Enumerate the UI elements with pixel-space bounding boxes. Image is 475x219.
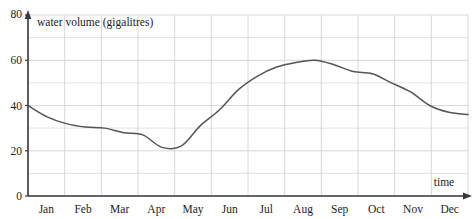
x-tick-label-sep: Sep xyxy=(331,203,349,216)
y-tick-label-20: 20 xyxy=(11,145,23,157)
y-tick-label-60: 60 xyxy=(11,54,23,66)
x-axis-month-labels: Jan Feb Mar Apr May Jun Jul Aug Sep Oct … xyxy=(39,203,459,216)
y-axis-caption: water volume (gigalitres) xyxy=(37,16,153,29)
x-tick-label-oct: Oct xyxy=(368,203,385,215)
x-tick-label-jan: Jan xyxy=(39,203,55,215)
x-tick-label-dec: Dec xyxy=(440,203,459,215)
x-tick-label-feb: Feb xyxy=(74,203,92,215)
x-tick-label-jun: Jun xyxy=(222,203,238,215)
x-tick-label-apr: Apr xyxy=(147,203,165,216)
x-axis-caption: time xyxy=(434,176,454,188)
line-chart: 0 20 40 60 80 water volume (gigalitres) … xyxy=(0,0,475,219)
y-tick-label-0: 0 xyxy=(16,190,22,202)
x-tick-label-nov: Nov xyxy=(403,203,423,215)
grid-lines xyxy=(28,15,468,196)
y-tick-label-40: 40 xyxy=(11,100,23,112)
x-tick-label-jul: Jul xyxy=(260,203,273,215)
x-tick-label-aug: Aug xyxy=(293,203,313,216)
y-axis-tick-labels: 0 20 40 60 80 xyxy=(11,8,23,203)
y-tick-label-80: 80 xyxy=(11,8,23,20)
x-tick-label-mar: Mar xyxy=(110,203,129,215)
x-tick-label-may: May xyxy=(182,203,203,216)
chart-canvas: 0 20 40 60 80 water volume (gigalitres) … xyxy=(0,0,475,219)
